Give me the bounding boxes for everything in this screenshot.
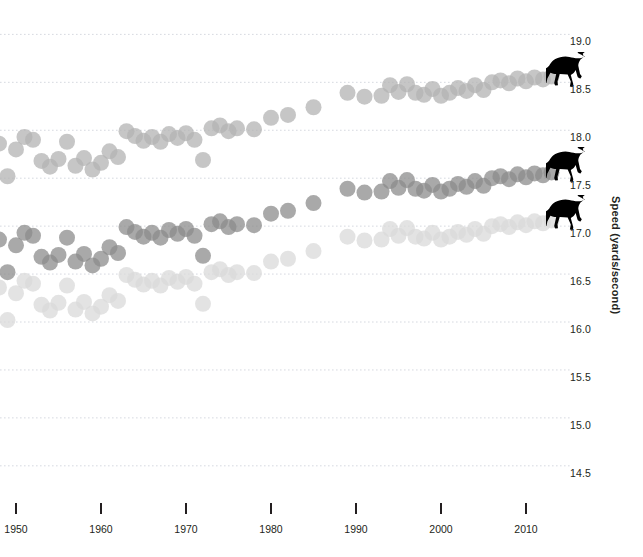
data-point <box>246 265 262 281</box>
data-point <box>0 232 7 248</box>
data-point <box>306 243 322 259</box>
data-point <box>187 276 203 292</box>
data-point <box>25 276 41 292</box>
data-point <box>59 278 75 294</box>
data-point <box>0 279 7 295</box>
data-point <box>110 293 126 309</box>
x-tick-mark <box>100 503 102 514</box>
y-tick-label: 18.0 <box>570 131 591 143</box>
data-point <box>263 206 279 222</box>
x-tick-label: 1990 <box>336 523 376 535</box>
data-point <box>59 134 75 150</box>
data-point <box>195 152 211 168</box>
data-point <box>187 132 203 148</box>
x-tick-label: 1980 <box>251 523 291 535</box>
series-bottom-series <box>0 212 560 328</box>
data-point <box>357 89 373 105</box>
data-point <box>306 195 322 211</box>
data-point <box>110 149 126 165</box>
data-point <box>25 132 41 148</box>
data-point <box>229 120 245 136</box>
data-point <box>246 217 262 233</box>
data-point <box>229 264 245 280</box>
y-tick-label: 17.0 <box>570 227 591 239</box>
data-point <box>0 168 16 184</box>
x-tick-mark <box>440 503 442 514</box>
data-point <box>246 121 262 137</box>
data-point <box>340 181 356 197</box>
x-tick-label: 2010 <box>506 523 546 535</box>
data-point <box>280 203 296 219</box>
data-point <box>0 264 16 280</box>
data-point <box>263 254 279 270</box>
y-tick-label: 18.5 <box>570 83 591 95</box>
data-point <box>195 248 211 264</box>
data-point <box>51 247 67 263</box>
y-tick-label: 15.5 <box>570 371 591 383</box>
data-point <box>195 296 211 312</box>
data-point <box>25 228 41 244</box>
data-point <box>357 233 373 249</box>
data-point <box>306 99 322 115</box>
y-tick-label: 16.5 <box>570 275 591 287</box>
x-tick-mark <box>270 503 272 514</box>
data-point <box>340 85 356 101</box>
y-tick-label: 19.0 <box>570 35 591 47</box>
data-point <box>340 229 356 245</box>
data-point <box>187 228 203 244</box>
data-point <box>357 185 373 201</box>
series-top-series <box>0 69 560 185</box>
x-tick-label: 1970 <box>166 523 206 535</box>
x-tick-mark <box>525 503 527 514</box>
data-point <box>0 136 7 152</box>
x-tick-mark <box>185 503 187 514</box>
scatter-chart: 14.515.015.516.016.517.017.518.018.519.0… <box>0 0 643 557</box>
data-point <box>0 312 16 328</box>
y-tick-label: 14.5 <box>570 467 591 479</box>
y-tick-label: 16.0 <box>570 323 591 335</box>
x-tick-label: 2000 <box>421 523 461 535</box>
x-tick-label: 1960 <box>81 523 121 535</box>
data-point <box>280 107 296 123</box>
y-axis-title: Speed (yards/second) <box>610 196 622 314</box>
y-tick-label: 17.5 <box>570 179 591 191</box>
data-point <box>229 216 245 232</box>
data-point <box>110 245 126 261</box>
data-point <box>263 110 279 126</box>
x-tick-mark <box>15 503 17 514</box>
x-tick-label: 1950 <box>0 523 36 535</box>
data-point <box>51 151 67 167</box>
y-tick-label: 15.0 <box>570 419 591 431</box>
data-point <box>280 251 296 267</box>
data-point <box>59 230 75 246</box>
x-tick-mark <box>355 503 357 514</box>
data-point <box>51 295 67 311</box>
